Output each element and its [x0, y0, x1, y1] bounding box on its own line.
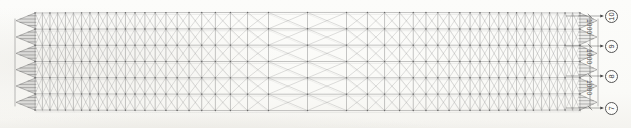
grid-bubble-label: 8 [606, 71, 617, 82]
grid-bubble-label: 9 [606, 41, 617, 52]
dimension-text: 1000 [586, 80, 593, 95]
dimension-text: 1000 [586, 19, 593, 34]
grid-bubble-8[interactable]: 8 [605, 70, 618, 83]
grid-bubble-9[interactable]: 9 [605, 40, 618, 53]
truss-linework [0, 0, 631, 128]
grid-bubble-label: 7 [606, 103, 617, 114]
grid-bubble-label: 10 [606, 11, 617, 22]
grid-bubble-10[interactable]: 10 [605, 10, 618, 23]
truss-geometry [15, 12, 598, 112]
drawing-sheet: 1000 1000 1000 10 9 8 7 [0, 0, 631, 128]
dimension-text: 1000 [586, 49, 593, 64]
grid-bubble-7[interactable]: 7 [605, 102, 618, 115]
